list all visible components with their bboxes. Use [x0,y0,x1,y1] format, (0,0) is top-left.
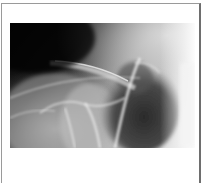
xray-image [10,23,195,148]
xray-graphic [10,23,195,148]
